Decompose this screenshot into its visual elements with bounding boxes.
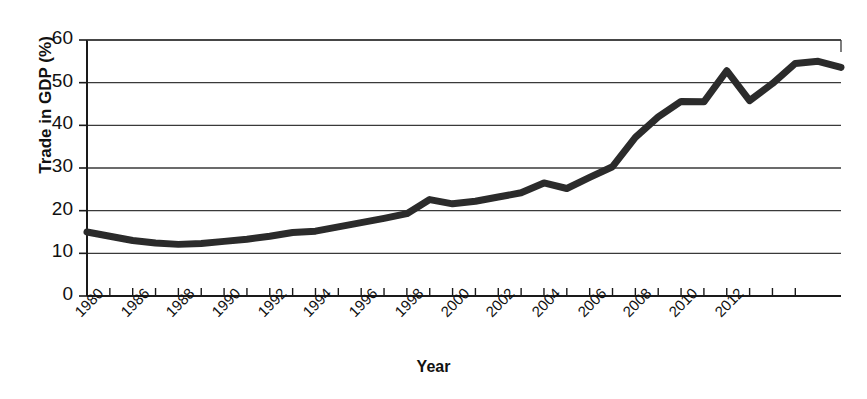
y-tick-label: 30 [27, 155, 73, 177]
y-tick-label: 50 [27, 70, 73, 92]
line-chart-plot [0, 0, 867, 399]
y-tick-label: 60 [27, 27, 73, 49]
y-tick-label: 20 [27, 198, 73, 220]
x-axis-title: Year [0, 358, 867, 376]
y-tick-label: 0 [27, 283, 73, 305]
y-tick-label: 10 [27, 240, 73, 262]
data-series [87, 61, 841, 244]
chart-container: Trade in GDP (%) 0102030405060 198019861… [0, 0, 867, 399]
y-tick-label: 40 [27, 112, 73, 134]
